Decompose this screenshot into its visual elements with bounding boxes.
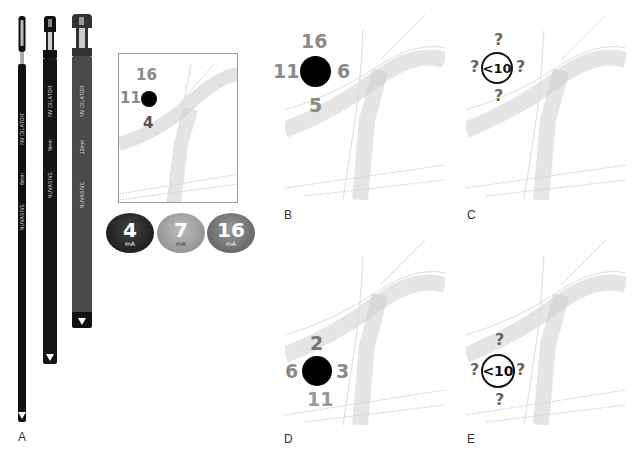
unknown-value-right: ? — [516, 362, 525, 378]
unknown-value-bottom: ? — [495, 392, 504, 408]
value-right: 3 — [336, 362, 349, 381]
dilator-size-label: 6mm — [19, 173, 25, 185]
badge-unit: mA — [176, 241, 186, 247]
value-top: 16 — [301, 32, 327, 51]
dilator-handle — [72, 14, 92, 28]
dilator-size-label: 12mm — [79, 140, 85, 155]
inset-value-top: 16 — [136, 68, 157, 83]
inset-diagram: 16 11 4 — [118, 53, 238, 203]
value-left: 6 — [285, 362, 298, 381]
panel-label-d: D — [284, 432, 293, 446]
dilator-model-label: NV DILATOR — [47, 85, 53, 117]
panel-label-b: B — [284, 208, 292, 222]
nerve-branch-illustration — [466, 10, 626, 200]
dilator-9mm: NV DILATOR 9mm NUVASIVE — [40, 16, 60, 366]
threshold-value: <10 — [483, 61, 512, 76]
badge-value: 7 — [174, 220, 188, 240]
current-badge-7ma: 7 mA — [157, 213, 205, 253]
panel-e: ? ? <10 ? ? — [466, 240, 626, 425]
unknown-value-left: ? — [470, 362, 479, 378]
threshold-ring: <10 — [481, 354, 515, 388]
threshold-ring: <10 — [481, 52, 513, 84]
unknown-value-left: ? — [470, 59, 479, 75]
badge-unit: mA — [125, 241, 135, 247]
threshold-value: <10 — [482, 363, 513, 379]
dilator-brand-label: NUVASIVE — [19, 204, 25, 231]
unknown-value-bottom: ? — [494, 88, 503, 104]
dilator-tip-arrow-icon — [46, 354, 54, 361]
panel-label-a: A — [18, 430, 26, 444]
value-bottom: 5 — [309, 96, 322, 115]
dilator-tip-arrow-icon — [78, 318, 86, 325]
panel-b: 16 11 6 5 — [285, 10, 445, 200]
dilator-model-label: NV DILATOR — [19, 113, 25, 145]
dilator-12mm: NV DILATOR 12mm NUVASIVE — [70, 14, 94, 330]
current-badge-16ma: 16 mA — [207, 213, 255, 253]
badge-unit: mA — [226, 241, 236, 247]
dilator-tip-arrow-icon — [18, 412, 26, 419]
dilator-6mm: NV DILATOR 6mm NUVASIVE — [14, 16, 30, 426]
badge-value: 16 — [217, 220, 245, 240]
value-bottom: 11 — [307, 390, 333, 409]
dilator-handle — [44, 16, 56, 32]
current-badge-4ma: 4 mA — [106, 213, 154, 253]
inset-value-bottom: 4 — [143, 116, 153, 131]
unknown-value-right: ? — [516, 59, 525, 75]
value-top: 2 — [310, 334, 323, 353]
dilator-size-label: 9mm — [47, 139, 53, 151]
unknown-value-top: ? — [495, 332, 504, 348]
value-right: 6 — [337, 62, 350, 81]
value-left: 11 — [273, 62, 299, 81]
panel-c: ? ? <10 ? ? — [466, 10, 626, 200]
panel-d: 2 6 3 11 — [285, 240, 445, 425]
badge-value: 4 — [123, 220, 137, 240]
inset-value-left: 11 — [120, 91, 141, 106]
panel-label-e: E — [467, 432, 475, 446]
stimulation-point-dot — [302, 356, 332, 386]
dilator-handle — [19, 16, 26, 52]
stimulation-point-dot — [300, 56, 331, 87]
dilator-brand-label: NUVASIVE — [47, 172, 53, 199]
panel-label-c: C — [467, 208, 476, 222]
stimulation-point-dot — [141, 91, 157, 107]
unknown-value-top: ? — [494, 32, 503, 48]
dilator-model-label: NV DILATOR — [79, 85, 85, 117]
dilator-brand-label: NUVASIVE — [79, 182, 85, 209]
nerve-branch-illustration — [466, 240, 626, 425]
